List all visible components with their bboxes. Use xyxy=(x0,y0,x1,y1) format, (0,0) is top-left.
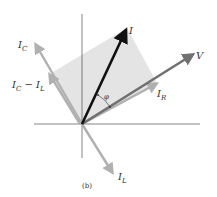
label-ic: IC xyxy=(17,39,28,53)
label-phi: φ xyxy=(104,93,109,101)
label-ic-minus-il: IC − IL xyxy=(11,79,45,93)
vector-il xyxy=(82,124,112,172)
label-ir: IR xyxy=(156,88,167,102)
label-v: V xyxy=(196,50,205,61)
label-i: I xyxy=(128,25,134,36)
phasor-diagram: I V IR IC IC − IL IL φ (b) xyxy=(0,0,217,197)
caption: (b) xyxy=(82,182,92,190)
label-il: IL xyxy=(117,171,127,185)
